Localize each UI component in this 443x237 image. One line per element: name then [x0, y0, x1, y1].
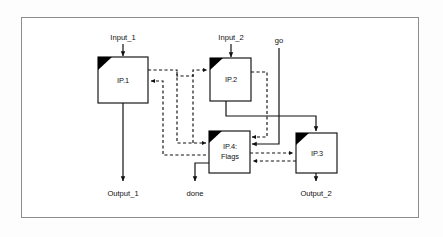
block-ip4[interactable]: IP.4: Flags [209, 131, 250, 173]
port-label-output-2: Output_2 [300, 189, 331, 198]
block-ip1-label: IP.1 [117, 76, 129, 85]
block-ip3-label: IP.3 [311, 149, 323, 158]
port-label-output-1: Output_1 [107, 189, 138, 198]
port-label-input-2: Input_2 [218, 33, 243, 42]
connector-ip4-to-done [195, 163, 209, 181]
connector-ip4-to-ip1 [151, 81, 206, 155]
block-ip1[interactable]: IP.1 [98, 57, 148, 103]
connector-ip2-to-ip3 [226, 101, 316, 131]
connector-ip2-to-ip4 [251, 72, 267, 137]
connector-go-to-ip4 [252, 48, 279, 144]
port-label-done: done [187, 189, 204, 198]
port-label-input-1: Input_1 [110, 33, 135, 42]
diagram-canvas: IP.1 IP.2 IP.4: Flags IP.3 Input_1 Input… [0, 0, 443, 237]
block-ip2[interactable]: IP.2 [210, 58, 251, 101]
block-ip4-label: IP.4: [223, 142, 237, 151]
block-ip3[interactable]: IP.3 [296, 133, 337, 173]
port-label-go: go [275, 36, 283, 45]
connector-ip1-to-ip4 [177, 72, 206, 143]
diagram-root: IP.1 IP.2 IP.4: Flags IP.3 Input_1 Input… [0, 0, 443, 237]
block-ip4-label-line2: Flags [221, 152, 239, 161]
block-ip2-label: IP.2 [225, 75, 237, 84]
